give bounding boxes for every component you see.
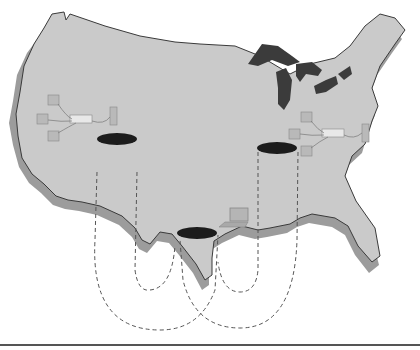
workstation-icon — [48, 131, 59, 141]
workstation-icon — [301, 146, 312, 156]
west-db-cylinder — [97, 133, 137, 145]
workstation-icon — [301, 112, 312, 122]
workstation-icon — [37, 114, 48, 124]
east-db-cylinder — [257, 142, 297, 154]
south-db-cylinder — [177, 227, 217, 239]
workstation-icon — [289, 129, 300, 139]
bottom-rule — [0, 344, 420, 346]
workstation-icon — [48, 95, 59, 105]
server-icon — [362, 124, 369, 142]
network-map-diagram — [0, 0, 420, 350]
us-map-svg — [0, 0, 420, 350]
hub-icon — [70, 115, 92, 123]
land-us — [16, 12, 405, 280]
hub-icon — [322, 129, 344, 137]
server-icon — [110, 107, 117, 125]
